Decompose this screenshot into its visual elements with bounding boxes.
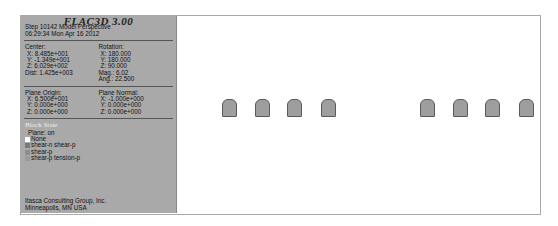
legend-item: shear-p tension-p: [21, 155, 176, 161]
divider: [24, 118, 173, 119]
plane-origin-z: Z: 0.000e+000: [25, 109, 99, 115]
legend-label: shear-p tension-p: [31, 155, 80, 161]
swatch-icon: [25, 137, 30, 142]
footer-location: Minneapolis, MN USA: [25, 205, 106, 211]
swatch-icon: [25, 156, 30, 161]
plane-normal-block: Plane Normal: X: -1.000e+000 Y: 0.000e+0…: [99, 90, 173, 116]
tunnel-block-shape: [485, 99, 500, 117]
footer: Itasca Consulting Group, Inc. Minneapoli…: [25, 198, 106, 211]
info-panel: FLAC3D 3.00 Step 10142 Model Perspective…: [21, 16, 177, 213]
tunnel-block-shape: [453, 99, 468, 117]
rotation-block: Rotation: X: 180.000 Y: 180.000 Z: 90.00…: [99, 44, 173, 82]
swatch-icon: [25, 143, 30, 148]
legend-title: Block State: [25, 122, 172, 128]
rotation-ang: Ang.: 22.500: [99, 76, 173, 82]
time-line: 06:29:34 Mon Apr 16 2012: [25, 31, 172, 37]
tunnel-block-shape: [222, 99, 237, 117]
tunnel-block-shape: [287, 99, 302, 117]
tunnel-block-shape: [420, 99, 435, 117]
tunnel-block-shape: [321, 99, 336, 117]
center-dist: Dist: 1.425e+003: [25, 70, 99, 76]
tunnel-block-shape: [255, 99, 270, 117]
plane-origin-block: Plane Origin: X: 6.500e+001 Y: 0.000e+00…: [25, 90, 99, 116]
tunnel-block-shape: [519, 99, 534, 117]
plane-normal-z: Z: 0.000e+000: [99, 109, 173, 115]
divider: [24, 40, 173, 41]
divider: [24, 86, 173, 87]
swatch-icon: [25, 150, 30, 155]
center-block: Center: X: 8.485e+001 Y: -1.349e+001 Z: …: [25, 44, 99, 82]
